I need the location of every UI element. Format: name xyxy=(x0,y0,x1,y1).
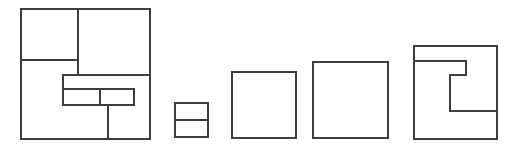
shape1-outer-rect xyxy=(21,9,150,139)
shape4-outer-rect xyxy=(313,62,388,138)
figure-canvas xyxy=(0,0,515,153)
shape-large-subdivided-square xyxy=(21,9,150,139)
shape-small-split-square xyxy=(175,103,208,137)
shape-spiral-hook-square xyxy=(414,46,497,139)
shape5-spiral-hook-path xyxy=(414,61,497,111)
shapes-svg xyxy=(0,0,515,153)
shape3-outer-rect xyxy=(232,72,296,138)
shape-plain-square-large xyxy=(313,62,388,138)
shape5-outer-rect xyxy=(414,46,497,139)
shape-plain-square-medium xyxy=(232,72,296,138)
